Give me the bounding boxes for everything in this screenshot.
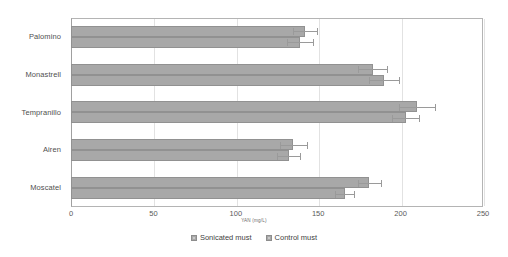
error-bar bbox=[399, 107, 435, 108]
bar-palomino-control-must bbox=[71, 37, 300, 48]
y-axis-category-labels: PalominoMonastrellTempranilloAirenMoscat… bbox=[0, 18, 66, 207]
error-bar-cap bbox=[313, 39, 314, 46]
error-bar-cap bbox=[354, 191, 355, 198]
legend-label: Control must bbox=[275, 233, 318, 242]
error-bar-cap bbox=[435, 104, 436, 111]
error-bar bbox=[369, 80, 399, 81]
error-bar bbox=[277, 156, 300, 157]
error-bar bbox=[280, 145, 306, 146]
y-axis-label-airen: Airen bbox=[43, 145, 61, 154]
error-bar-cap bbox=[358, 180, 359, 187]
error-bar-cap bbox=[287, 39, 288, 46]
y-axis-label-tempranillo: Tempranillo bbox=[22, 108, 61, 117]
y-axis-label-moscatel: Moscatel bbox=[30, 183, 61, 192]
error-bar-cap bbox=[280, 142, 281, 149]
bar-monastrell-control-must bbox=[71, 75, 384, 86]
gridline bbox=[484, 19, 485, 206]
y-axis-label-palomino: Palomino bbox=[29, 32, 61, 41]
error-bar-cap bbox=[358, 66, 359, 73]
x-tick-0: 0 bbox=[69, 209, 73, 218]
legend-swatch-icon bbox=[191, 235, 197, 241]
error-bar bbox=[287, 42, 313, 43]
x-tick-50: 50 bbox=[149, 209, 157, 218]
error-bar-cap bbox=[369, 77, 370, 84]
error-bar bbox=[335, 194, 355, 195]
error-bar bbox=[392, 118, 418, 119]
error-bar-cap bbox=[399, 77, 400, 84]
category-row bbox=[71, 56, 483, 94]
error-bar bbox=[358, 69, 388, 70]
bar-moscatel-control-must bbox=[71, 188, 345, 199]
error-bar bbox=[358, 183, 381, 184]
error-bar-cap bbox=[335, 191, 336, 198]
bar-palomino-sonicated-must bbox=[71, 26, 305, 37]
bar-series-container bbox=[71, 18, 483, 207]
error-bar-cap bbox=[277, 153, 278, 160]
x-tick-250: 250 bbox=[477, 209, 490, 218]
bar-airen-sonicated-must bbox=[71, 139, 293, 150]
bar-tempranillo-control-must bbox=[71, 112, 406, 123]
legend-swatch-icon bbox=[266, 235, 272, 241]
error-bar-cap bbox=[307, 142, 308, 149]
error-bar-cap bbox=[387, 66, 388, 73]
bar-chart: PalominoMonastrellTempranilloAirenMoscat… bbox=[0, 0, 508, 257]
category-row bbox=[71, 131, 483, 169]
x-tick-100: 100 bbox=[230, 209, 243, 218]
error-bar-cap bbox=[419, 115, 420, 122]
error-bar-cap bbox=[381, 180, 382, 187]
category-row bbox=[71, 94, 483, 132]
error-bar-cap bbox=[293, 28, 294, 35]
x-axis-title: YAN (mg/L) bbox=[0, 218, 508, 223]
bar-airen-control-must bbox=[71, 150, 289, 161]
error-bar-cap bbox=[300, 153, 301, 160]
x-tick-150: 150 bbox=[312, 209, 325, 218]
bar-monastrell-sonicated-must bbox=[71, 64, 373, 75]
category-row bbox=[71, 18, 483, 56]
error-bar-cap bbox=[317, 28, 318, 35]
chart-legend: Sonicated mustControl must bbox=[0, 233, 508, 242]
x-tick-200: 200 bbox=[394, 209, 407, 218]
error-bar-cap bbox=[392, 115, 393, 122]
legend-item-sonicated-must[interactable]: Sonicated must bbox=[191, 233, 252, 242]
bar-moscatel-sonicated-must bbox=[71, 177, 369, 188]
legend-label: Sonicated must bbox=[200, 233, 252, 242]
y-axis-label-monastrell: Monastrell bbox=[25, 70, 61, 79]
bar-tempranillo-sonicated-must bbox=[71, 101, 417, 112]
category-row bbox=[71, 169, 483, 207]
error-bar bbox=[293, 31, 316, 32]
legend-item-control-must[interactable]: Control must bbox=[266, 233, 318, 242]
error-bar-cap bbox=[399, 104, 400, 111]
